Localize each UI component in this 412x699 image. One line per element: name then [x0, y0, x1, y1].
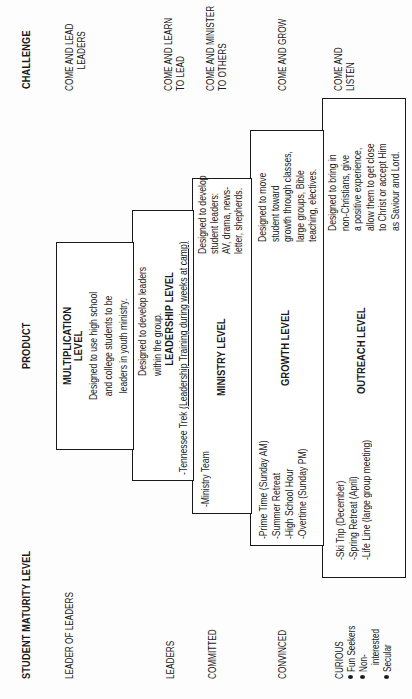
curious-bullet-secular: Secular	[381, 626, 393, 679]
multiplication-desc-line1: Designed to use high school	[86, 264, 101, 428]
youth-ministry-pyramid-diagram: STUDENT MATURITY LEVEL PRODUCT CHALLENGE…	[0, 0, 412, 699]
multiplication-title-line2: LEVEL	[73, 264, 84, 428]
multiplication-desc-line3: leaders in youth ministry.	[116, 264, 131, 428]
leadership-description: Designed to develop leaders within the g…	[135, 267, 165, 376]
outreach-programs: -Ski Trip (December) -Spring Retreat (Ap…	[334, 440, 373, 560]
maturity-convinced: CONVINCED	[276, 630, 288, 679]
outreach-description: Designed to bring in non-Christians, giv…	[326, 143, 401, 231]
multiplication-title-line1: MULTIPLICATION	[62, 264, 73, 428]
header-student-maturity-level: STUDENT MATURITY LEVEL	[20, 551, 32, 679]
maturity-leaders: LEADERS	[164, 641, 176, 679]
leadership-program: -Tennessee Trek (Leadership Training dur…	[178, 241, 189, 475]
growth-title: GROWTH LEVEL	[280, 310, 291, 386]
challenge-grow: COME AND GROW	[276, 19, 288, 91]
header-product: PRODUCT	[20, 322, 32, 369]
challenge-minister-to-others: COME AND MINISTER TO OTHERS	[204, 6, 228, 91]
curious-bullet-non: Non-	[357, 626, 369, 679]
outreach-title: OUTREACH LEVEL	[356, 308, 367, 394]
tennessee-trek-label: -Tennessee Trek	[177, 409, 189, 475]
leadership-title: LEADERSHIP LEVEL	[164, 253, 175, 384]
challenge-learn-to-lead: COME AND LEARN TO LEAD	[162, 18, 186, 91]
ministry-program: -Ministry Team	[200, 451, 211, 507]
maturity-leader-of-leaders: LEADER OF LEADERS	[63, 592, 75, 679]
header-challenge: CHALLENGE	[20, 30, 32, 89]
maturity-committed: COMMITTED	[206, 629, 218, 679]
growth-description: Designed to move student toward growth t…	[256, 151, 319, 242]
ministry-description: Designed to develop student leaders: AV,…	[196, 175, 244, 254]
challenge-lead-leaders: COME AND LEAD LEADERS	[63, 24, 87, 91]
multiplication-level-content: MULTIPLICATION LEVEL Designed to use hig…	[62, 264, 131, 428]
growth-programs: -Prime Time (Sunday AM) -Summer Retreat …	[257, 440, 309, 539]
multiplication-desc-line2: and college students to be	[101, 264, 116, 428]
challenge-listen: COME AND LISTEN	[332, 47, 356, 91]
curious-bullet-interested-cont: interested	[369, 626, 381, 679]
tennessee-trek-detail: (Leadership Training during weeks at cam…	[177, 241, 189, 409]
maturity-curious: CURIOUS Fun Seekers Non- interested Secu…	[333, 626, 393, 679]
curious-bullet-fun-seekers: Fun Seekers	[345, 626, 357, 679]
ministry-title: MINISTRY LEVEL	[216, 318, 227, 396]
curious-title: CURIOUS	[333, 626, 345, 679]
